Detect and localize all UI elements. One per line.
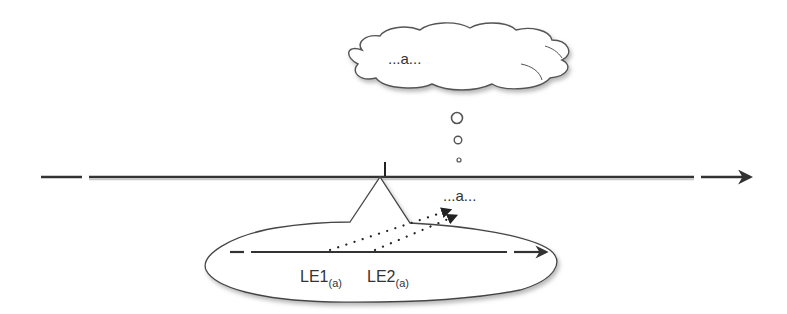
zoom-callout: LE1(a) LE2(a) [205, 177, 557, 302]
main-timeline [41, 162, 750, 180]
diagram-canvas: ...a... LE1(a) LE2(a) ...a... [0, 0, 787, 314]
thought-bubbles [452, 113, 463, 163]
thought-bubble-medium [454, 136, 462, 144]
label-le2-main: LE2 [367, 268, 396, 285]
label-le2-sub: (a) [395, 277, 408, 289]
thought-bubble-large [452, 113, 463, 124]
thought-bubble-small [457, 158, 461, 162]
label-le1-sub: (a) [328, 277, 341, 289]
emerging-text: ...a... [443, 187, 476, 204]
thought-cloud: ...a... [349, 23, 569, 90]
cloud-shape [349, 23, 569, 90]
cloud-text: ...a... [388, 50, 421, 67]
label-le1-main: LE1 [300, 268, 329, 285]
